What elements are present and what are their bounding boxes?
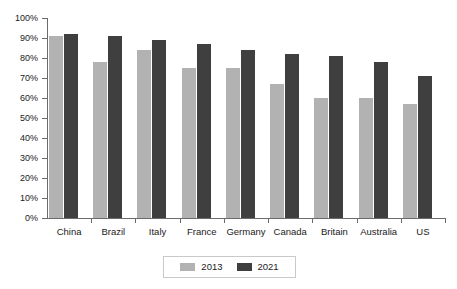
x-axis-label-germany: Germany (224, 226, 268, 237)
bar-group (180, 18, 224, 218)
y-axis-tick-label: 0% (0, 214, 38, 223)
y-axis-tick-label: 80% (0, 54, 38, 63)
bar-canada-2013[interactable] (270, 84, 284, 218)
bar-britain-2021[interactable] (329, 56, 343, 218)
bar-italy-2021[interactable] (152, 40, 166, 218)
x-axis-tick (401, 218, 402, 223)
x-axis-tick (224, 218, 225, 223)
bar-brazil-2021[interactable] (108, 36, 122, 218)
x-axis-tick (312, 218, 313, 223)
bar-group (268, 18, 312, 218)
x-axis-tick (135, 218, 136, 223)
bar-group (224, 18, 268, 218)
chart-legend: 2013 2021 (163, 256, 296, 278)
x-axis-tick (268, 218, 269, 223)
bar-group (135, 18, 179, 218)
bar-group (401, 18, 445, 218)
x-axis-tick (91, 218, 92, 223)
bar-group (47, 18, 91, 218)
x-axis-label-canada: Canada (268, 226, 312, 237)
y-axis-tick-label: 60% (0, 94, 38, 103)
bar-brazil-2013[interactable] (93, 62, 107, 218)
y-axis-tick-label: 30% (0, 154, 38, 163)
bar-chart: 100%90%80%70%60%50%40%30%20%10%0% ChinaB… (0, 0, 457, 289)
bar-canada-2021[interactable] (285, 54, 299, 218)
x-axis-tick (445, 218, 446, 223)
x-axis-tick (180, 218, 181, 223)
bar-germany-2021[interactable] (241, 50, 255, 218)
bar-france-2021[interactable] (197, 44, 211, 218)
legend-item[interactable]: 2013 (180, 262, 222, 272)
bar-france-2013[interactable] (182, 68, 196, 218)
bar-italy-2013[interactable] (137, 50, 151, 218)
x-axis-label-china: China (47, 226, 91, 237)
legend-item[interactable]: 2021 (237, 262, 279, 272)
bar-group (312, 18, 356, 218)
y-axis-tick-label: 40% (0, 134, 38, 143)
x-axis-label-britain: Britain (312, 226, 356, 237)
bar-us-2013[interactable] (403, 104, 417, 218)
x-axis-label-france: France (180, 226, 224, 237)
bar-australia-2013[interactable] (359, 98, 373, 218)
y-axis-tick-label: 20% (0, 174, 38, 183)
bar-us-2021[interactable] (418, 76, 432, 218)
x-axis-label-australia: Australia (357, 226, 401, 237)
legend-label: 2013 (201, 262, 222, 272)
x-axis-tick (357, 218, 358, 223)
y-axis-tick-label: 90% (0, 34, 38, 43)
y-axis-tick-label: 50% (0, 114, 38, 123)
plot-area (47, 18, 445, 218)
y-axis-tick-label: 100% (0, 14, 38, 23)
bar-china-2013[interactable] (49, 36, 63, 218)
bar-group (357, 18, 401, 218)
y-axis-tick (42, 218, 47, 219)
x-axis-line (47, 218, 446, 219)
x-axis-label-italy: Italy (135, 226, 179, 237)
bar-germany-2013[interactable] (226, 68, 240, 218)
y-axis-tick-label: 10% (0, 194, 38, 203)
y-axis-tick-label: 70% (0, 74, 38, 83)
bar-group (91, 18, 135, 218)
x-axis-label-us: US (401, 226, 445, 237)
bar-china-2021[interactable] (64, 34, 78, 218)
legend-label: 2021 (258, 262, 279, 272)
bar-australia-2021[interactable] (374, 62, 388, 218)
bar-britain-2013[interactable] (314, 98, 328, 218)
x-axis-label-brazil: Brazil (91, 226, 135, 237)
legend-swatch-icon (237, 263, 252, 271)
legend-swatch-icon (180, 263, 195, 271)
